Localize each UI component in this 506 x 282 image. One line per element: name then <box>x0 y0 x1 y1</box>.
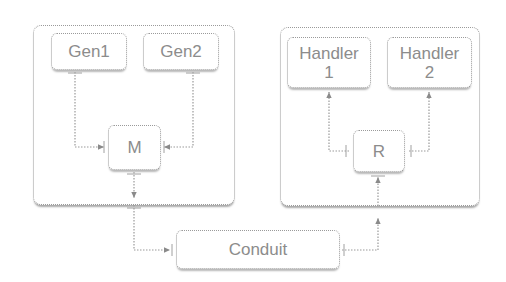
edge-r-handler1 <box>329 92 349 151</box>
conduit-label: Conduit <box>229 240 288 259</box>
gen1-label: Gen1 <box>68 42 110 61</box>
r-node[interactable]: R <box>353 130 405 172</box>
handler1-node[interactable]: Handler 1 <box>287 37 371 88</box>
handler2-node[interactable]: Handler 2 <box>387 37 472 88</box>
edge-gen1-m <box>75 72 104 147</box>
m-label: M <box>127 138 141 157</box>
edge-r-handler2 <box>409 92 429 151</box>
gen1-node[interactable]: Gen1 <box>51 33 127 70</box>
handler1-label: Handler 1 <box>299 44 359 82</box>
edge-m-conduit <box>134 205 170 250</box>
r-label: R <box>373 142 385 161</box>
gen2-label: Gen2 <box>160 42 202 61</box>
conduit-node[interactable]: Conduit <box>176 230 340 269</box>
gen2-node[interactable]: Gen2 <box>143 33 219 70</box>
edge-conduit-r <box>342 218 378 250</box>
edge-gen2-m <box>164 72 193 147</box>
m-node[interactable]: M <box>108 125 161 170</box>
handler2-label: Handler 2 <box>400 44 460 82</box>
